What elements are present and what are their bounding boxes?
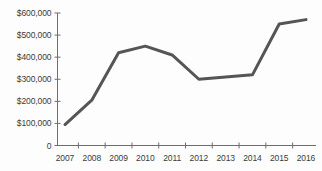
y-axis-tick-label: $100,000 bbox=[17, 118, 52, 128]
line-chart: 0$100,000$200,000$300,000$400,000$500,00… bbox=[0, 0, 322, 171]
x-axis-tick-label: 2007 bbox=[56, 153, 75, 163]
y-axis-tick-label: $200,000 bbox=[17, 96, 52, 106]
x-axis-tick-label: 2015 bbox=[270, 153, 289, 163]
x-axis-tick-label: 2012 bbox=[190, 153, 209, 163]
data-series-line bbox=[65, 20, 306, 125]
x-axis-tick-label: 2009 bbox=[109, 153, 128, 163]
y-axis-tick-label: $600,000 bbox=[17, 8, 52, 18]
x-axis-tick-label: 2014 bbox=[243, 153, 262, 163]
y-axis-tick-label: 0 bbox=[47, 141, 52, 151]
y-axis-tick-label: $500,000 bbox=[17, 30, 52, 40]
x-axis-tick-label: 2011 bbox=[163, 153, 181, 163]
x-axis-tick-label: 2008 bbox=[83, 153, 102, 163]
y-axis-tick-label: $400,000 bbox=[17, 52, 52, 62]
x-axis-tick-label: 2016 bbox=[297, 153, 316, 163]
x-axis-tick-label: 2010 bbox=[136, 153, 155, 163]
x-axis-tick-label: 2013 bbox=[216, 153, 235, 163]
y-axis-tick-label: $300,000 bbox=[17, 74, 52, 84]
